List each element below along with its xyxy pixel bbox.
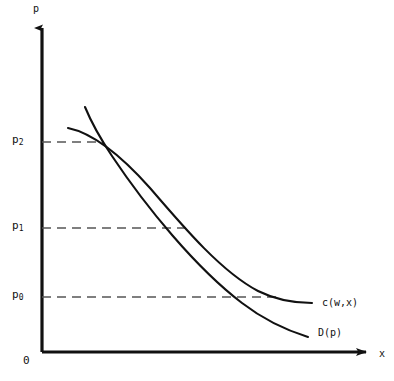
cost-curve-label: c(w,x)	[322, 298, 358, 308]
plot-canvas	[0, 0, 394, 381]
price-label-p1-sub: 1	[19, 224, 24, 233]
demand-curve-label: D(p)	[318, 328, 342, 338]
cost-curve-path	[68, 128, 312, 303]
price-label-p0-base: p	[12, 288, 19, 301]
price-label-p2-base: p	[12, 133, 19, 146]
price-label-p1-base: p	[12, 219, 19, 232]
economics-price-quantity-diagram: p x 0 p2 p1 p0 c(w,x) D(p)	[0, 0, 394, 381]
origin-label: 0	[23, 355, 30, 366]
price-label-p2-sub: 2	[19, 138, 24, 147]
price-label-p0: p0	[12, 289, 23, 300]
price-label-p1: p1	[12, 220, 23, 231]
price-label-p2: p2	[12, 134, 23, 145]
demand-curve-path	[85, 107, 308, 337]
y-axis-label: p	[33, 4, 39, 14]
x-axis-label: x	[379, 349, 385, 359]
price-label-p0-sub: 0	[19, 293, 24, 302]
